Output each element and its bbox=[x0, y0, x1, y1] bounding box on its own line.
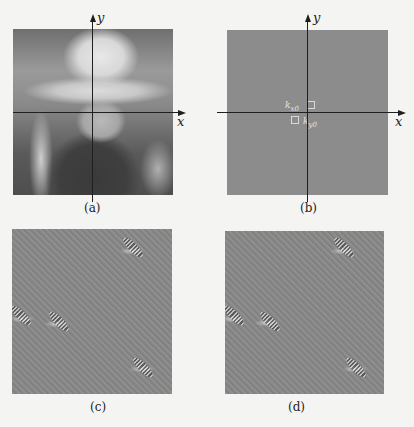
fringe-feature bbox=[12, 303, 33, 328]
y-axis-label-b: y bbox=[313, 10, 320, 25]
fringe-feature bbox=[344, 355, 369, 380]
caption-c: (c) bbox=[90, 400, 106, 414]
fringe-feature bbox=[332, 235, 357, 260]
fringe-feature bbox=[225, 303, 246, 328]
fringe-feature bbox=[258, 309, 283, 334]
peak-label-kx0: kx0 bbox=[285, 100, 299, 113]
y-axis-a bbox=[92, 22, 93, 202]
caption-b: (b) bbox=[300, 201, 317, 215]
caption-a: (a) bbox=[84, 201, 101, 215]
peak-label-ky0: ky0 bbox=[303, 116, 317, 129]
x-axis-label-b: x bbox=[395, 114, 402, 129]
fringe-feature bbox=[131, 355, 156, 380]
fringe-feature bbox=[47, 309, 72, 334]
fringe-feature bbox=[121, 235, 146, 260]
x-axis-a bbox=[13, 112, 179, 113]
caption-d: (d) bbox=[288, 400, 305, 414]
peak-marker-square-lower bbox=[291, 116, 299, 124]
y-axis-arrow-icon bbox=[305, 14, 311, 22]
y-axis-arrow-icon bbox=[90, 14, 96, 22]
fringe-panel-c bbox=[12, 229, 172, 394]
fringe-panel-d bbox=[225, 231, 384, 394]
x-axis-label-a: x bbox=[177, 114, 184, 129]
y-axis-b bbox=[307, 22, 308, 202]
y-axis-label-a: y bbox=[97, 10, 104, 25]
